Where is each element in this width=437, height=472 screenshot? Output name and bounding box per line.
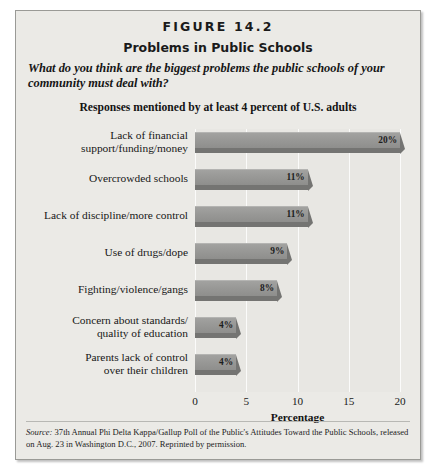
bar-fill: 20% <box>195 132 400 149</box>
source-label: Source: <box>26 427 52 437</box>
bar-value-label: 9% <box>270 245 284 258</box>
bar-chart-plot: Lack of financialsupport/funding/money20… <box>16 129 420 417</box>
x-tick-label: 15 <box>334 395 364 407</box>
bar-row: Parents lack of controlover their childr… <box>16 351 420 388</box>
bar-value-label: 4% <box>219 319 233 332</box>
bar-3d-cap <box>308 207 313 228</box>
bar-category-line: Use of drugs/dope <box>16 246 188 259</box>
bar: 9% <box>195 243 287 265</box>
bar-category-label: Parents lack of controlover their childr… <box>16 351 188 376</box>
bar-value-label: 20% <box>378 134 397 147</box>
x-tick-label: 0 <box>180 395 210 407</box>
bar: 8% <box>195 280 277 302</box>
bar-value-label: 11% <box>287 208 305 221</box>
bar-category-line: quality of education <box>16 327 188 340</box>
bar-3d-cap <box>287 244 292 265</box>
bar-row: Concern about standards/quality of educa… <box>16 314 420 351</box>
bar-3d-shadow <box>195 333 236 338</box>
bar-category-label: Use of drugs/dope <box>16 246 188 259</box>
bar-category-label: Overcrowded schools <box>16 172 188 185</box>
bar-fill: 11% <box>195 206 308 223</box>
bar: 11% <box>195 169 308 191</box>
bar-category-line: support/funding/money <box>16 142 188 155</box>
bar-fill: 8% <box>195 280 277 297</box>
bar: 11% <box>195 206 308 228</box>
bar-value-label: 11% <box>287 171 305 184</box>
bar-category-label: Fighting/violence/gangs <box>16 283 188 296</box>
bar-row: Use of drugs/dope9% <box>16 240 420 277</box>
bar-row: Lack of discipline/more control11% <box>16 203 420 240</box>
figure-question: What do you think are the biggest proble… <box>28 61 408 90</box>
bar-row: Overcrowded schools11% <box>16 166 420 203</box>
bar-3d-cap <box>277 281 282 302</box>
bar-3d-cap <box>236 318 241 339</box>
bar-3d-cap <box>400 133 405 154</box>
figure-subtitle: Responses mentioned by at least 4 percen… <box>16 101 420 114</box>
bar: 4% <box>195 317 236 339</box>
bar-category-line: Fighting/violence/gangs <box>16 283 188 296</box>
bar-3d-shadow <box>195 222 308 227</box>
source-text: 37th Annual Phi Delta Kappa/Gallup Poll … <box>26 427 408 449</box>
bar-3d-cap <box>236 355 241 376</box>
bar-category-label: Lack of financialsupport/funding/money <box>16 129 188 154</box>
bar-fill: 11% <box>195 169 308 186</box>
x-axis: 05101520 <box>16 395 420 411</box>
bar-category-line: Lack of financial <box>16 129 188 142</box>
bar-fill: 9% <box>195 243 287 260</box>
bar-row: Fighting/violence/gangs8% <box>16 277 420 314</box>
figure-number: FIGURE 14.2 <box>16 19 420 34</box>
bar: 4% <box>195 354 236 376</box>
bar-value-label: 8% <box>260 282 274 295</box>
bar-category-label: Concern about standards/quality of educa… <box>16 314 188 339</box>
bar-value-label: 4% <box>219 356 233 369</box>
bar-category-line: Parents lack of control <box>16 351 188 364</box>
bar-3d-shadow <box>195 370 236 375</box>
figure-card: FIGURE 14.2 Problems in Public Schools W… <box>15 10 421 460</box>
bar-category-line: over their children <box>16 364 188 377</box>
bar-3d-shadow <box>195 185 308 190</box>
bar-3d-shadow <box>195 148 400 153</box>
source-divider <box>26 421 410 422</box>
bar-category-line: Overcrowded schools <box>16 172 188 185</box>
figure-title: Problems in Public Schools <box>16 40 420 55</box>
x-tick-label: 20 <box>385 395 415 407</box>
source-note: Source: 37th Annual Phi Delta Kappa/Gall… <box>26 427 412 450</box>
x-tick-label: 10 <box>283 395 313 407</box>
bar-category-line: Concern about standards/ <box>16 314 188 327</box>
bar-fill: 4% <box>195 317 236 334</box>
bar-category-line: Lack of discipline/more control <box>16 209 188 222</box>
bar-3d-shadow <box>195 259 287 264</box>
x-tick-label: 5 <box>231 395 261 407</box>
bar-3d-cap <box>308 170 313 191</box>
bar-category-label: Lack of discipline/more control <box>16 209 188 222</box>
bar: 20% <box>195 132 400 154</box>
bar-fill: 4% <box>195 354 236 371</box>
bar-row: Lack of financialsupport/funding/money20… <box>16 129 420 166</box>
bar-3d-shadow <box>195 296 277 301</box>
